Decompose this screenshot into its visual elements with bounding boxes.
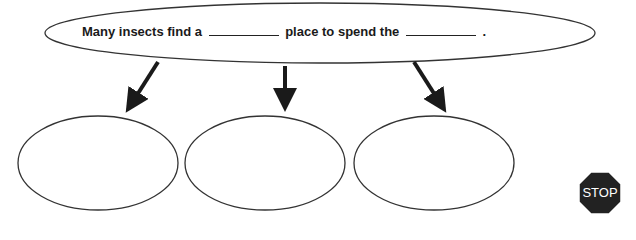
- blank-1[interactable]: [209, 24, 279, 36]
- blank-2[interactable]: [406, 24, 476, 36]
- sentence-part-3: .: [483, 24, 487, 39]
- detail-ellipse-right: [354, 116, 514, 210]
- detail-ellipse-left: [18, 116, 178, 210]
- stop-sign-icon: STOP: [578, 171, 622, 215]
- arrow-left: [130, 62, 158, 106]
- stop-label: STOP: [578, 171, 622, 215]
- sentence-part-1: Many insects find a: [82, 24, 202, 39]
- arrow-right: [414, 62, 442, 106]
- main-sentence: Many insects find a place to spend the .: [82, 24, 522, 39]
- detail-ellipse-middle: [185, 116, 345, 210]
- sentence-part-2: place to spend the: [285, 24, 399, 39]
